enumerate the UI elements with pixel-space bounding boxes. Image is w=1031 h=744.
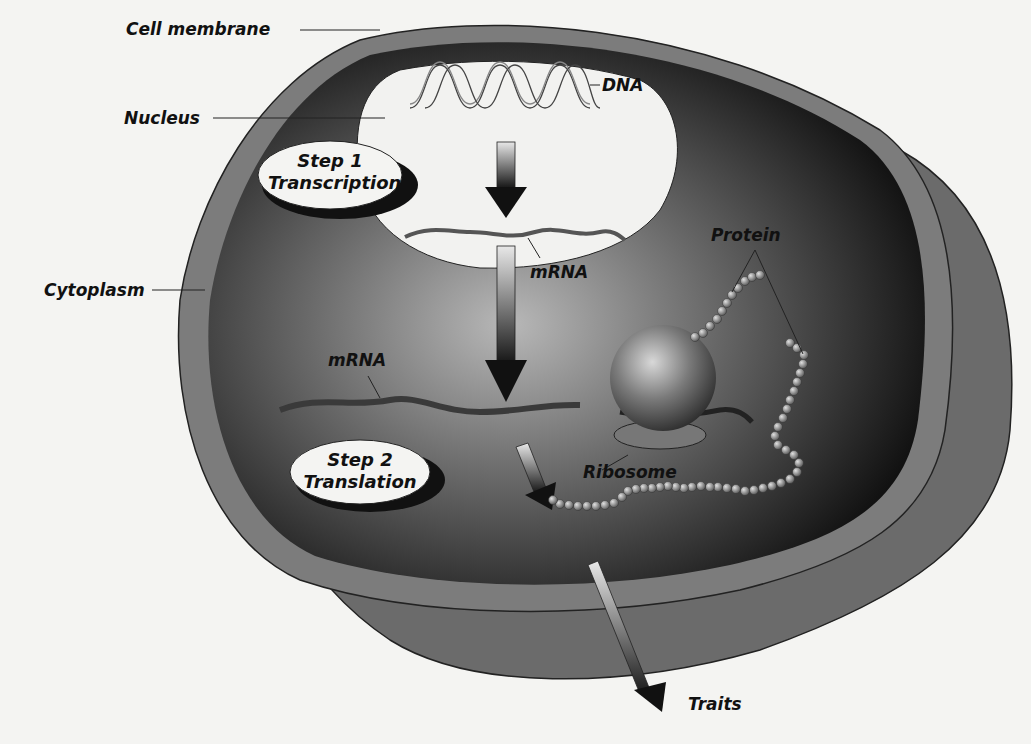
step2-title: Step 2 [298,449,422,471]
label-mrna-nucleus: mRNA [530,262,588,282]
ribosome-subunit-large [610,325,716,431]
label-ribosome: Ribosome [583,462,677,482]
label-cytoplasm: Cytoplasm [44,280,145,300]
label-nucleus: Nucleus [124,108,200,128]
step2-text: Step 2 Translation [298,449,422,493]
step1-title: Step 1 [268,150,392,172]
label-traits: Traits [688,694,742,714]
label-mrna-cytoplasm: mRNA [328,350,386,370]
label-protein: Protein [711,225,781,245]
step2-name: Translation [298,471,422,493]
step1-text: Step 1 Transcription [268,150,392,194]
label-dna: DNA [602,75,644,95]
label-cell-membrane: Cell membrane [126,19,270,39]
step1-name: Transcription [268,172,392,194]
